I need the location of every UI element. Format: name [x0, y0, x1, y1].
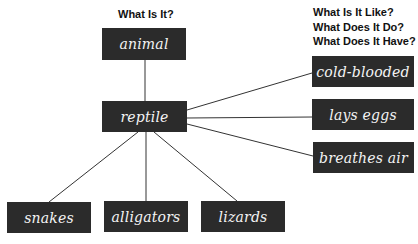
connector-reptile-breathes-air	[187, 124, 313, 156]
node-reptile: reptile	[102, 101, 187, 132]
connector-reptile-cold-blooded	[187, 73, 312, 110]
connector-reptile-lays-eggs	[187, 117, 312, 118]
node-animal: animal	[102, 28, 186, 60]
node-lizards: lizards	[201, 201, 285, 232]
node-lays-eggs: lays eggs	[312, 99, 414, 130]
connector-reptile-snakes	[49, 132, 138, 202]
node-alligators: alligators	[104, 201, 188, 232]
node-breathes-air: breathes air	[313, 142, 414, 173]
node-snakes: snakes	[7, 202, 91, 233]
connector-reptile-lizards	[154, 132, 237, 201]
node-cold-blooded: cold-blooded	[312, 56, 414, 87]
